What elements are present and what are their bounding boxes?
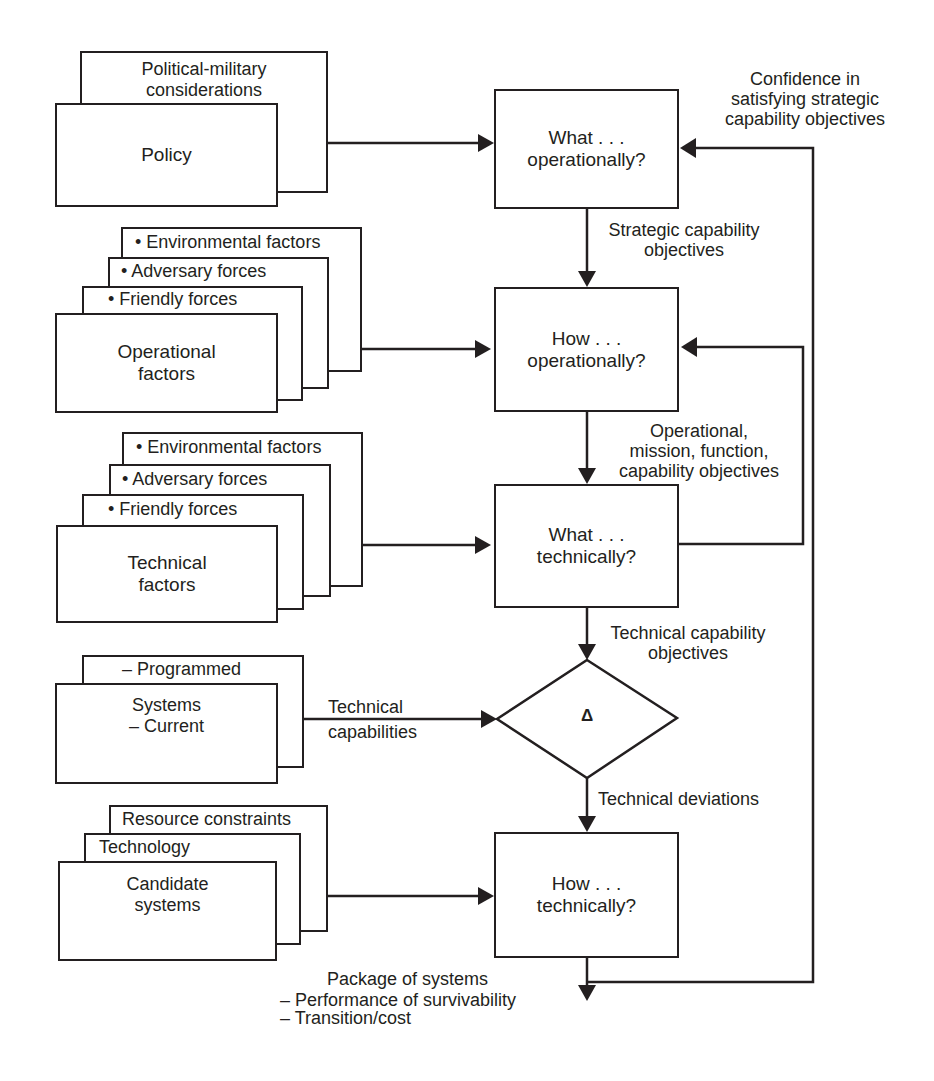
how-technically-line1: How . . . <box>496 873 677 895</box>
how-operationally-line2: operationally? <box>496 350 677 372</box>
what-operationally-line2: operationally? <box>496 149 677 171</box>
political-military-label-line1: Political-military <box>82 59 326 80</box>
delta-icon: Δ <box>577 706 597 726</box>
technology-label: Technology <box>99 837 190 858</box>
candidate-systems-label-line2: systems <box>60 895 275 916</box>
technical-factors-label-line1: Technical <box>58 552 276 574</box>
systems-card: Systems – Current <box>55 683 278 784</box>
output-item-transition-cost: – Transition/cost <box>280 1008 411 1028</box>
operational-factors-label-line1: Operational <box>57 341 276 363</box>
what-operationally-line1: What . . . <box>496 127 677 149</box>
operational-factors-card: Operational factors <box>55 313 278 413</box>
op-adversary-label: • Adversary forces <box>121 261 266 282</box>
what-technically-line2: technically? <box>496 546 677 568</box>
political-military-label-line2: considerations <box>82 80 326 101</box>
tech-adversary-label: • Adversary forces <box>122 469 267 490</box>
candidate-systems-label-line1: Candidate <box>60 874 275 895</box>
resource-constraints-label: Resource constraints <box>122 809 291 830</box>
flowchart-canvas: Political-military considerations Policy… <box>0 0 934 1081</box>
confidence-label: Confidence in satisfying strategic capab… <box>700 69 910 129</box>
operational-factors-label-line2: factors <box>57 363 276 385</box>
tech-environmental-label: • Environmental factors <box>136 437 321 458</box>
policy-card: Policy <box>55 103 278 207</box>
candidate-systems-card: Candidate systems <box>58 861 277 961</box>
technical-factors-card: Technical factors <box>56 525 278 623</box>
what-technically-line1: What . . . <box>496 524 677 546</box>
technical-deviations-label: Technical deviations <box>598 789 759 809</box>
policy-label: Policy <box>57 144 276 166</box>
op-friendly-label: • Friendly forces <box>108 289 237 310</box>
op-environmental-label: • Environmental factors <box>135 232 320 253</box>
technical-capabilities-label: Technical capabilities <box>328 695 417 745</box>
systems-label-line1: Systems <box>57 695 276 716</box>
how-operationally-line1: How . . . <box>496 328 677 350</box>
technical-factors-label-line2: factors <box>58 574 276 596</box>
output-item-survivability: – Performance of survivability <box>280 990 516 1010</box>
how-operationally-box: How . . . operationally? <box>494 287 679 412</box>
how-technically-line2: technically? <box>496 895 677 917</box>
systems-label-line2: – Current <box>57 716 276 737</box>
technical-objectives-label: Technical capability objectives <box>598 623 778 663</box>
strategic-objectives-label: Strategic capability objectives <box>594 220 774 260</box>
output-package-label: Package of systems <box>327 969 488 989</box>
what-technically-box: What . . . technically? <box>494 484 679 608</box>
how-technically-box: How . . . technically? <box>494 832 679 958</box>
programmed-label: – Programmed <box>122 659 241 680</box>
what-operationally-box: What . . . operationally? <box>494 89 679 209</box>
operational-objectives-label: Operational, mission, function, capabili… <box>604 421 794 481</box>
tech-friendly-label: • Friendly forces <box>108 499 237 520</box>
